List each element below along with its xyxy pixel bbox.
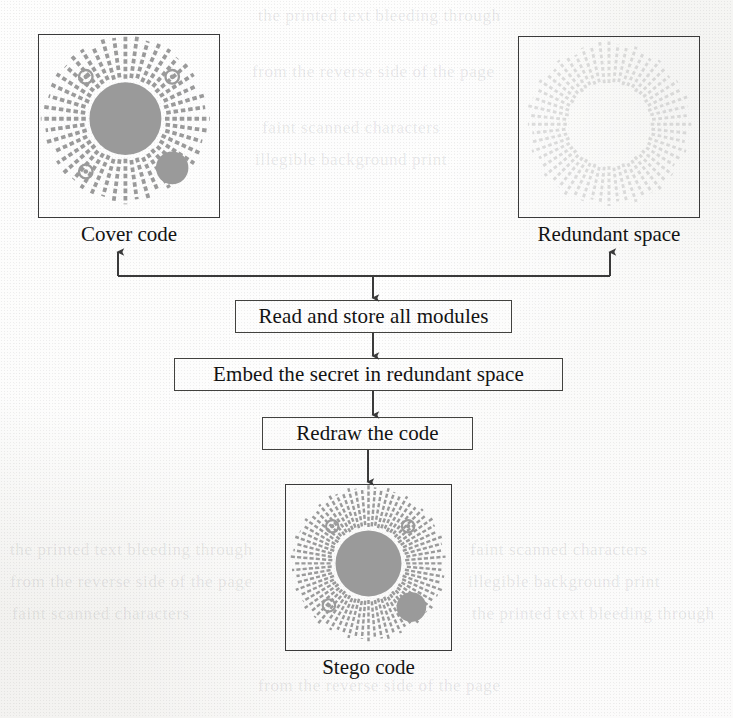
ghost-text-line: from the reverse side of the page — [252, 62, 495, 82]
caption-stego-code: Stego code — [285, 655, 452, 680]
stego-code-symbol — [286, 485, 451, 650]
step-embed-label: Embed the secret in redundant space — [213, 362, 524, 387]
ghost-text-line: the printed text bleeding through — [258, 6, 501, 26]
ghost-text-line: faint scanned characters — [12, 604, 190, 624]
ghost-text-line: illegible background print — [255, 150, 447, 170]
step-read-box[interactable]: Read and store all modules — [235, 300, 512, 333]
ghost-text-line: from the reverse side of the page — [10, 572, 253, 592]
step-read-label: Read and store all modules — [258, 304, 488, 329]
ghost-text-line: the printed text bleeding through — [472, 604, 715, 624]
figure-canvas: the printed text bleeding through from t… — [0, 0, 733, 718]
ghost-text-line: faint scanned characters — [262, 118, 440, 138]
panel-redundant-space — [518, 36, 700, 218]
panel-stego-code — [285, 484, 452, 651]
ghost-text-line: illegible background print — [468, 572, 660, 592]
caption-cover-code: Cover code — [38, 222, 220, 247]
panel-cover-code — [38, 34, 220, 218]
step-embed-box[interactable]: Embed the secret in redundant space — [174, 358, 563, 391]
ghost-text-line: the printed text bleeding through — [10, 540, 253, 560]
caption-redundant-space: Redundant space — [500, 222, 718, 247]
cover-code-symbol — [39, 35, 219, 217]
step-redraw-label: Redraw the code — [296, 421, 439, 446]
ghost-text-line: faint scanned characters — [470, 540, 648, 560]
redundant-space-symbol — [519, 37, 699, 217]
step-redraw-box[interactable]: Redraw the code — [262, 417, 473, 450]
